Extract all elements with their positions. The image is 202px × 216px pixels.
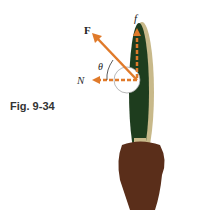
label-N: N bbox=[76, 74, 85, 86]
label-theta: θ bbox=[98, 61, 103, 72]
hand bbox=[118, 142, 164, 211]
label-f: f bbox=[134, 12, 139, 24]
normal-arrowhead bbox=[92, 76, 100, 84]
angle-arc bbox=[107, 60, 113, 80]
figure-caption: Fig. 9-34 bbox=[10, 100, 55, 112]
label-F: F bbox=[84, 24, 91, 36]
